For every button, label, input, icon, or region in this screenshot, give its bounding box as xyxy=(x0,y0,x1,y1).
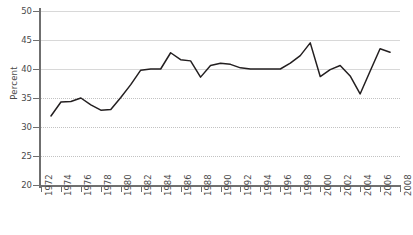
data-line-series xyxy=(51,43,390,116)
